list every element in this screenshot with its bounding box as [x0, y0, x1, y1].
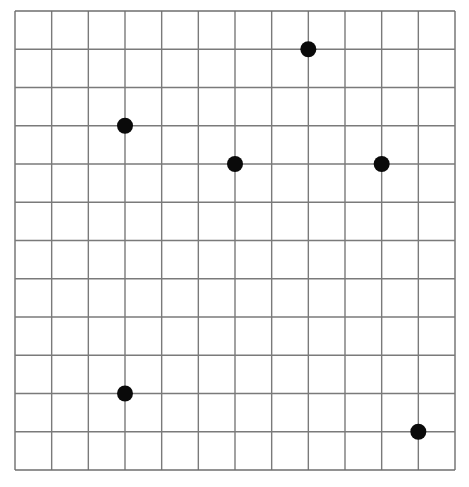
grid-point: [117, 386, 133, 402]
grid-point: [410, 424, 426, 440]
dot-grid-diagram: [0, 0, 469, 487]
grid-point: [374, 156, 390, 172]
grid-point: [227, 156, 243, 172]
grid-point: [300, 41, 316, 57]
grid-lines: [15, 11, 455, 470]
grid-point: [117, 118, 133, 134]
